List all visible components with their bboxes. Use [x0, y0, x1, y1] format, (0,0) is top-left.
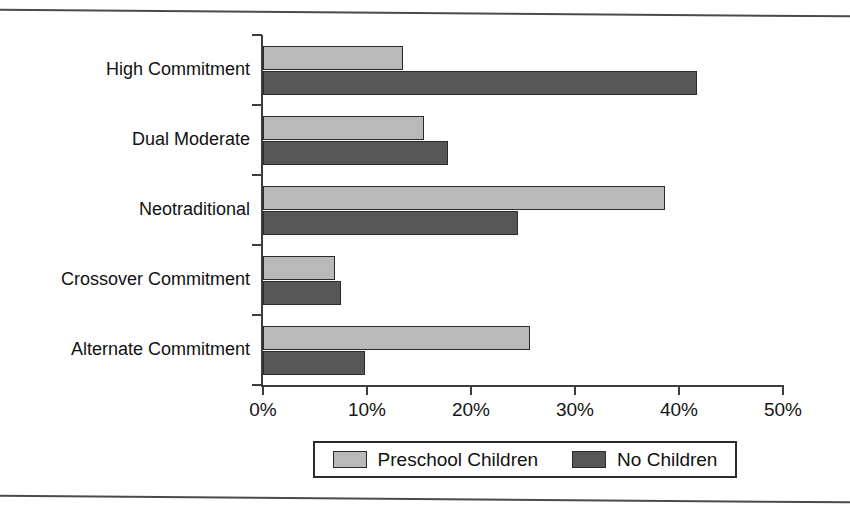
top-divider-rule	[0, 9, 850, 18]
value-tick	[678, 385, 680, 395]
bar-group	[263, 326, 783, 375]
category-tick	[252, 384, 262, 386]
value-tick-label: 40%	[660, 399, 698, 421]
bar	[263, 281, 341, 305]
value-tick-label: 20%	[452, 399, 490, 421]
bottom-divider-rule	[0, 495, 850, 504]
category-label: Dual Moderate	[0, 129, 250, 150]
category-label: High Commitment	[0, 59, 250, 80]
value-tick	[262, 385, 264, 395]
category-tick	[252, 314, 262, 316]
legend-item: No Children	[572, 449, 717, 471]
value-tick-label: 50%	[764, 399, 802, 421]
legend-swatch	[333, 451, 367, 468]
bar-chart-figure: High CommitmentDual ModerateNeotradition…	[0, 0, 850, 516]
legend-item: Preschool Children	[333, 449, 539, 471]
value-tick	[470, 385, 472, 395]
value-tick	[782, 385, 784, 395]
bar	[263, 256, 335, 280]
category-tick	[252, 34, 262, 36]
plot-area: 0%10%20%30%40%50%	[263, 35, 783, 385]
bar	[263, 211, 518, 235]
legend-swatch	[572, 451, 606, 468]
bar-group	[263, 46, 783, 95]
bar	[263, 116, 424, 140]
bar	[263, 326, 530, 350]
bar-group	[263, 256, 783, 305]
category-tick	[252, 244, 262, 246]
value-tick-label: 10%	[348, 399, 386, 421]
bar	[263, 351, 365, 375]
legend-label: Preschool Children	[378, 449, 539, 471]
value-tick-label: 30%	[556, 399, 594, 421]
category-label: Neotraditional	[0, 199, 250, 220]
bar-group	[263, 116, 783, 165]
legend-label: No Children	[617, 449, 717, 471]
value-tick	[574, 385, 576, 395]
category-tick	[252, 174, 262, 176]
bar	[263, 71, 697, 95]
category-label: Crossover Commitment	[0, 269, 250, 290]
category-axis-spine	[261, 385, 783, 387]
value-tick	[366, 385, 368, 395]
category-label: Alternate Commitment	[0, 339, 250, 360]
bar	[263, 141, 448, 165]
category-tick	[252, 104, 262, 106]
bar	[263, 186, 665, 210]
chart-legend: Preschool ChildrenNo Children	[313, 441, 737, 478]
bar-group	[263, 186, 783, 235]
value-tick-label: 0%	[249, 399, 276, 421]
bar	[263, 46, 403, 70]
